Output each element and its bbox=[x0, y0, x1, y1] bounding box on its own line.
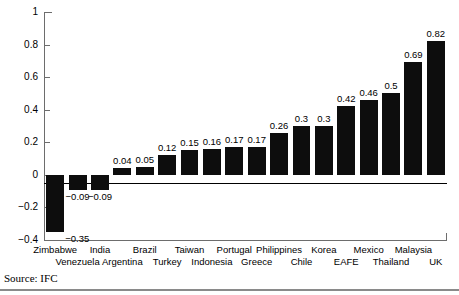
bar-argentina bbox=[113, 168, 131, 175]
y-axis-tick-label: 0.2 bbox=[0, 137, 38, 147]
bar-value-label: 0.05 bbox=[125, 155, 165, 165]
x-axis-right-tick bbox=[446, 233, 447, 241]
bar-value-label: −0.09 bbox=[80, 192, 120, 202]
bar-taiwan bbox=[181, 150, 199, 174]
y-axis-tick-label: −0.2 bbox=[0, 202, 38, 212]
y-axis-tick-label: 1 bbox=[0, 7, 38, 17]
y-axis-tick bbox=[44, 110, 50, 111]
bar-brazil bbox=[136, 167, 154, 175]
bar-india bbox=[91, 175, 109, 190]
bar-zimbabwe bbox=[46, 175, 64, 232]
bar-portugal bbox=[225, 147, 243, 175]
bar-mexico bbox=[360, 100, 378, 175]
bar-indonesia bbox=[203, 149, 221, 175]
bar-value-label: 0.17 bbox=[237, 135, 277, 145]
bar-chart-figure: −0.4−0.200.20.40.60.81 −0.35−0.09−0.090.… bbox=[0, 0, 459, 295]
y-axis-tick bbox=[44, 240, 50, 241]
bar-greece bbox=[248, 147, 266, 175]
source-note: Source: IFC bbox=[4, 272, 57, 284]
bar-thailand bbox=[382, 93, 400, 174]
y-axis-tick-label: 0 bbox=[0, 170, 38, 180]
y-axis-tick-label: 0.6 bbox=[0, 72, 38, 82]
bar-chile bbox=[293, 126, 311, 175]
y-axis-tick bbox=[44, 142, 50, 143]
category-label-uk: UK bbox=[404, 256, 459, 267]
bar-malaysia bbox=[404, 62, 422, 174]
bar-venezuela bbox=[69, 175, 87, 190]
y-axis-tick-label: 0.8 bbox=[0, 40, 38, 50]
bar-value-label: 0.82 bbox=[416, 29, 456, 39]
y-axis-tick bbox=[44, 12, 50, 13]
bar-uk bbox=[427, 41, 445, 175]
bottom-divider-rule bbox=[0, 289, 459, 291]
category-label-malaysia: Malaysia bbox=[381, 244, 445, 255]
bar-value-label: 0.3 bbox=[304, 114, 344, 124]
bar-value-label: 0.69 bbox=[393, 50, 433, 60]
bar-value-label: 0.5 bbox=[371, 81, 411, 91]
y-axis-tick bbox=[44, 77, 50, 78]
y-axis-tick-label: 0.4 bbox=[0, 105, 38, 115]
x-axis-line bbox=[44, 240, 447, 241]
y-axis-tick bbox=[44, 45, 50, 46]
bar-value-label: −0.35 bbox=[57, 234, 97, 244]
bar-korea bbox=[315, 126, 333, 175]
cropped-title-remnant bbox=[120, 0, 420, 6]
